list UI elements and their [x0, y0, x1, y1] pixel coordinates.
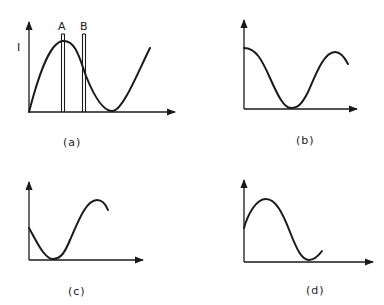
intensity-curve [244, 199, 322, 260]
marker-b: B [80, 20, 88, 112]
panel-b: (b) [244, 20, 357, 147]
intensity-curve [244, 48, 348, 108]
intensity-curve [29, 41, 150, 112]
intensity-curve [29, 200, 108, 259]
marker-b-label: B [80, 20, 88, 33]
figure-canvas: I A B (a) (b) (c) (d) [0, 0, 384, 305]
panel-b-caption: (b) [296, 134, 315, 147]
panel-a-caption: (a) [63, 136, 81, 149]
panel-c: (c) [29, 182, 143, 298]
panel-d-caption: (d) [306, 284, 325, 297]
panel-c-caption: (c) [68, 285, 86, 298]
marker-a: A [58, 20, 66, 112]
panel-a: I A B (a) [17, 20, 175, 149]
marker-a-label: A [58, 20, 66, 33]
y-axis-label: I [17, 41, 20, 54]
panel-d: (d) [244, 180, 373, 297]
